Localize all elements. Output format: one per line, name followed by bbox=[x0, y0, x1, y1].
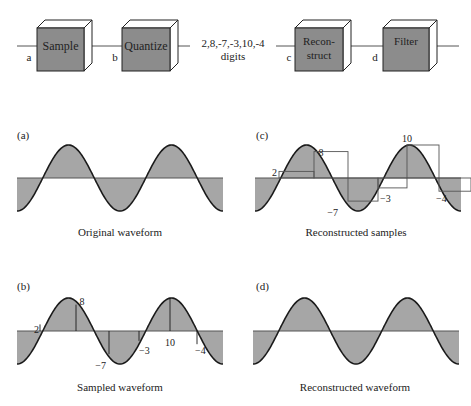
digits-caption: digits bbox=[221, 50, 245, 62]
sample-block-label: Sample bbox=[43, 39, 79, 53]
quantize-block-label: Quantize bbox=[124, 39, 167, 53]
signal-label-d: d bbox=[372, 51, 378, 63]
panel-c-label-neg3: −3 bbox=[380, 193, 391, 204]
signal-label-b: b bbox=[112, 51, 118, 63]
panel-c-label-neg7: −7 bbox=[327, 207, 338, 218]
sample-block: Sample bbox=[37, 20, 92, 71]
filter-block-label: Filter bbox=[394, 35, 418, 47]
panel-c-label-2: 2 bbox=[272, 167, 277, 178]
panel-b-tag: (b) bbox=[17, 280, 30, 293]
reconstruct-block-label-line2: struct bbox=[307, 49, 331, 61]
panel-d-tag: (d) bbox=[256, 280, 269, 293]
panel-original-waveform bbox=[17, 145, 223, 211]
panel-c-label-10: 10 bbox=[402, 133, 412, 144]
panel-b-label-neg3: −3 bbox=[139, 345, 150, 356]
block-diagram: Sample Quantize Recon- struct Filter a b… bbox=[17, 20, 459, 71]
panel-a-tag: (a) bbox=[17, 129, 30, 142]
panel-c-label-8: 8 bbox=[319, 147, 324, 158]
quantize-block: Quantize bbox=[122, 20, 178, 71]
panel-b-label-10: 10 bbox=[165, 337, 175, 348]
signal-label-a: a bbox=[27, 51, 32, 63]
panel-reconstructed-waveform bbox=[253, 298, 459, 364]
panel-b-label-2: 2 bbox=[34, 324, 39, 335]
signal-label-c: c bbox=[287, 51, 292, 63]
reconstruct-block-label-line1: Recon- bbox=[303, 35, 335, 47]
panel-b-caption: Sampled waveform bbox=[77, 381, 163, 393]
panel-a-caption: Original waveform bbox=[78, 226, 162, 238]
panel-c-label-neg4: −4 bbox=[436, 193, 447, 204]
panel-d-caption: Reconstructed waveform bbox=[300, 381, 411, 393]
filter-block: Filter bbox=[383, 20, 437, 71]
panel-c-tag: (c) bbox=[256, 129, 269, 142]
panel-sampled-waveform bbox=[17, 298, 223, 364]
digital-sampling-diagram: Sample Quantize Recon- struct Filter a b… bbox=[0, 0, 471, 406]
panel-c-caption: Reconstructed samples bbox=[305, 226, 406, 238]
reconstruct-block: Recon- struct bbox=[295, 20, 351, 71]
panel-b-label-neg7: −7 bbox=[95, 360, 106, 371]
panel-b-label-neg4: −4 bbox=[195, 345, 206, 356]
panel-b-label-8: 8 bbox=[80, 296, 85, 307]
digits-sequence: 2,8,-7,-3,10,-4 bbox=[201, 37, 265, 49]
